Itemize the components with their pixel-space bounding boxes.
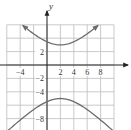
x-tick-label: 2 — [58, 68, 62, 77]
axes: y — [0, 1, 128, 130]
hyperbola-graph: y −424682−2−4−8 — [0, 0, 131, 130]
y-axis-label: y — [48, 1, 53, 11]
x-tick-label: 4 — [72, 68, 76, 77]
y-tick-label: 2 — [40, 48, 44, 57]
y-tick-label: −4 — [35, 88, 44, 97]
grid-lines — [7, 25, 114, 130]
x-tick-label: 8 — [99, 68, 103, 77]
x-tick-label: 6 — [85, 68, 89, 77]
y-tick-label: −8 — [35, 115, 44, 124]
x-tick-label: −4 — [16, 68, 25, 77]
y-tick-label: −2 — [35, 74, 44, 83]
